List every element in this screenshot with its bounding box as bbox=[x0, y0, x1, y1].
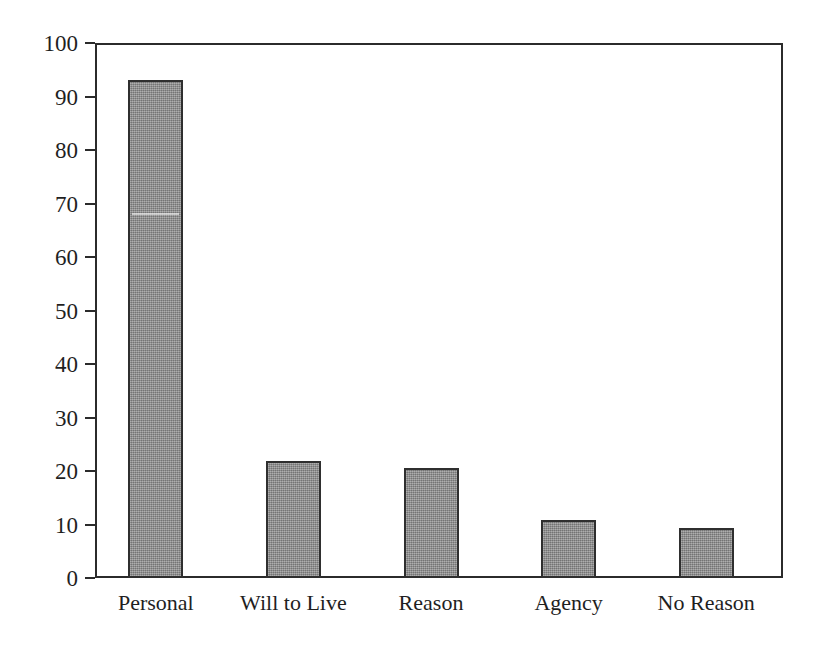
y-axis-tick-label: 20 bbox=[0, 460, 78, 483]
y-axis-tick-label: 30 bbox=[0, 406, 78, 429]
bar bbox=[541, 520, 596, 578]
bar bbox=[266, 461, 321, 578]
y-axis-tick-label: 60 bbox=[0, 246, 78, 269]
x-axis-category-label: Personal bbox=[118, 592, 194, 614]
y-axis-tick-label: 40 bbox=[0, 353, 78, 376]
x-axis-category-label: Will to Live bbox=[240, 592, 347, 614]
y-axis-tick-mark bbox=[85, 149, 95, 151]
y-axis-tick-mark bbox=[85, 470, 95, 472]
x-axis-category-label: Agency bbox=[534, 592, 602, 614]
bar-chart: 0102030405060708090100 PersonalWill to L… bbox=[0, 0, 821, 660]
x-axis-category-label: Reason bbox=[399, 592, 464, 614]
bars-layer bbox=[95, 43, 783, 578]
y-axis-tick-mark bbox=[85, 524, 95, 526]
y-axis-tick-label: 100 bbox=[0, 32, 78, 55]
y-axis-tick-mark bbox=[85, 577, 95, 579]
y-axis-tick-mark bbox=[85, 42, 95, 44]
scan-artifact-line bbox=[132, 213, 179, 215]
y-axis-tick-mark bbox=[85, 363, 95, 365]
y-axis-tick-label: 50 bbox=[0, 299, 78, 322]
y-axis-tick-mark bbox=[85, 310, 95, 312]
x-axis-category-label: No Reason bbox=[658, 592, 755, 614]
bar bbox=[679, 528, 734, 578]
y-axis-tick-label: 80 bbox=[0, 139, 78, 162]
bar bbox=[404, 468, 459, 578]
y-axis-tick-label: 90 bbox=[0, 85, 78, 108]
bar bbox=[128, 80, 183, 578]
y-axis-tick-label: 0 bbox=[0, 567, 78, 590]
y-axis-tick-mark bbox=[85, 96, 95, 98]
y-axis-tick-mark bbox=[85, 256, 95, 258]
y-axis-tick-label: 10 bbox=[0, 513, 78, 536]
y-axis-tick-mark bbox=[85, 203, 95, 205]
y-axis-tick-label: 70 bbox=[0, 192, 78, 215]
y-axis-tick-mark bbox=[85, 417, 95, 419]
